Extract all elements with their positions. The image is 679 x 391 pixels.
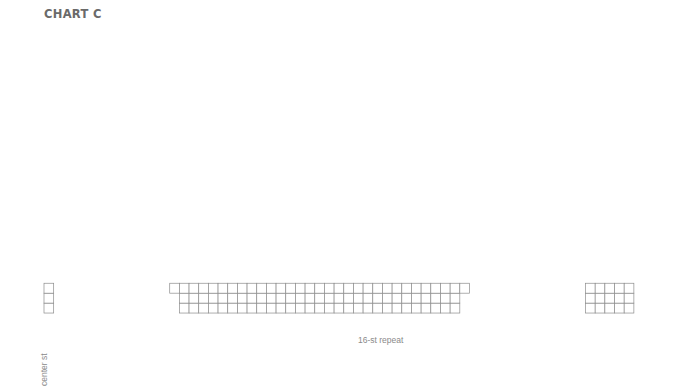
grid-cell (199, 293, 209, 303)
grid-cell (421, 283, 431, 293)
grid-cell (586, 283, 596, 293)
grid-cell (615, 283, 625, 293)
grid-cell (402, 303, 412, 313)
grid-cell (266, 283, 276, 293)
grid-cell (411, 303, 421, 313)
grid-cell (170, 283, 180, 293)
grid-cell (440, 283, 450, 293)
grid-cell (247, 283, 257, 293)
grid-cell (460, 283, 470, 293)
grid-cell (344, 293, 354, 303)
grid-cell (305, 303, 315, 313)
grid-cell (286, 293, 296, 303)
grid-cell (199, 283, 209, 293)
grid-cell (228, 283, 238, 293)
grid-cell (218, 283, 228, 293)
grid-cell (402, 283, 412, 293)
grid-cell (208, 283, 218, 293)
grid-cell (295, 283, 305, 293)
repeat-label: 16-st repeat (358, 335, 403, 345)
grid-cell (276, 283, 286, 293)
grid-cell (595, 303, 605, 313)
grid-cell (450, 283, 460, 293)
grid-cell (344, 303, 354, 313)
grid-cell (421, 303, 431, 313)
grid-cell (266, 303, 276, 313)
grid-cell (624, 283, 634, 293)
grid-cell (247, 303, 257, 313)
grid-cell (440, 293, 450, 303)
grid-cell (363, 283, 373, 293)
grid-cell (605, 303, 615, 313)
grid-cell (228, 293, 238, 303)
grid-cell (247, 293, 257, 303)
grid-cell (189, 303, 199, 313)
grid-cell (595, 293, 605, 303)
knitting-chart-grid (0, 0, 679, 391)
grid-cell (276, 303, 286, 313)
grid-cell (305, 283, 315, 293)
grid-cell (286, 283, 296, 293)
grid-cell (218, 293, 228, 303)
grid-cell (334, 283, 344, 293)
grid-cell (450, 303, 460, 313)
grid-cell (334, 293, 344, 303)
grid-cell (257, 303, 267, 313)
grid-cell (353, 303, 363, 313)
chart-cells (44, 283, 634, 313)
grid-cell (208, 303, 218, 313)
center-stitch-label: center st (39, 353, 49, 386)
grid-cell (440, 303, 450, 313)
grid-cell (605, 293, 615, 303)
grid-cell (237, 303, 247, 313)
grid-cell (450, 293, 460, 303)
grid-cell (315, 283, 325, 293)
grid-cell (295, 303, 305, 313)
grid-cell (392, 293, 402, 303)
grid-cell (315, 303, 325, 313)
grid-cell (324, 303, 334, 313)
grid-cell (392, 283, 402, 293)
grid-cell (324, 293, 334, 303)
grid-cell (382, 283, 392, 293)
grid-cell (411, 293, 421, 303)
grid-cell (431, 283, 441, 293)
grid-cell (373, 283, 383, 293)
grid-cell (305, 293, 315, 303)
grid-cell (431, 303, 441, 313)
grid-cell (228, 303, 238, 313)
grid-cell (373, 303, 383, 313)
grid-cell (402, 293, 412, 303)
grid-cell (266, 293, 276, 303)
grid-cell (257, 293, 267, 303)
grid-cell (189, 293, 199, 303)
grid-cell (624, 293, 634, 303)
grid-cell (189, 283, 199, 293)
grid-cell (44, 303, 54, 313)
grid-cell (344, 283, 354, 293)
grid-cell (392, 303, 402, 313)
grid-cell (179, 293, 189, 303)
grid-cell (431, 293, 441, 303)
grid-cell (179, 283, 189, 293)
grid-cell (421, 293, 431, 303)
grid-cell (324, 283, 334, 293)
grid-cell (382, 303, 392, 313)
grid-cell (44, 293, 54, 303)
grid-cell (382, 293, 392, 303)
grid-cell (237, 283, 247, 293)
grid-cell (615, 293, 625, 303)
grid-cell (586, 293, 596, 303)
grid-cell (257, 283, 267, 293)
grid-cell (218, 303, 228, 313)
grid-cell (615, 303, 625, 313)
grid-cell (334, 303, 344, 313)
grid-cell (276, 293, 286, 303)
grid-cell (199, 303, 209, 313)
grid-cell (353, 283, 363, 293)
grid-cell (179, 303, 189, 313)
grid-cell (295, 293, 305, 303)
grid-cell (605, 283, 615, 293)
grid-cell (363, 293, 373, 303)
grid-cell (315, 293, 325, 303)
